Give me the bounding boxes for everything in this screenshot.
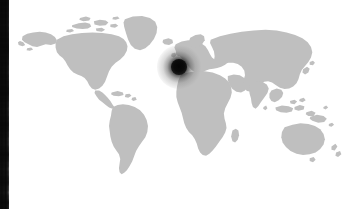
landmass-pacific-islets [323, 106, 334, 127]
landmass-australia [281, 123, 325, 155]
landmass-new-zealand [331, 144, 341, 157]
landmass-alaska [18, 32, 57, 51]
landmass-tasmania [310, 157, 316, 162]
landmass-southeast-asia [269, 88, 283, 102]
map-stage[interactable] [0, 0, 355, 209]
landmass-madagascar [231, 129, 239, 143]
landmass-north-america [56, 32, 128, 89]
landmass-caribbean [111, 91, 137, 101]
landmass-arctic-archipelago [66, 17, 119, 33]
landmass-sri-lanka [263, 106, 267, 111]
landmass-indonesia [275, 98, 315, 116]
landmass-india [249, 81, 269, 109]
landmass-iceland [163, 38, 174, 45]
landmass-greenland [124, 16, 158, 50]
world-map[interactable] [14, 8, 344, 186]
location-marker-core [171, 59, 187, 75]
landmass-south-america [109, 104, 148, 174]
map-screenshot-root [0, 0, 355, 209]
landmass-central-america [95, 90, 115, 108]
panel-sliver-texture [0, 0, 9, 209]
adjacent-panel-sliver[interactable] [0, 0, 9, 209]
location-marker[interactable] [157, 45, 201, 89]
